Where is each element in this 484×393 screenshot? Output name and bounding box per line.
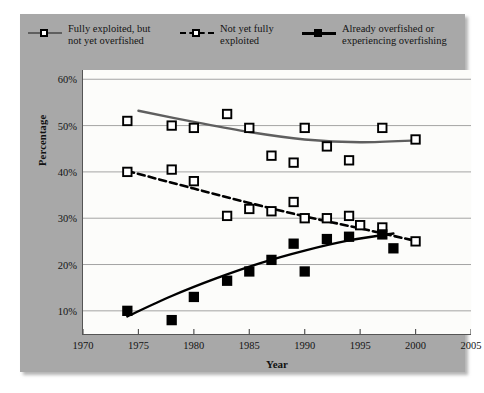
y-tick-label: 60% <box>58 74 77 85</box>
legend-label-already-overfished: Already overfished or experiencing overf… <box>342 23 447 47</box>
x-axis-title: Year <box>266 358 288 370</box>
data-point-marker <box>223 277 231 285</box>
data-point-marker <box>289 239 297 247</box>
y-tick-label: 40% <box>58 166 77 177</box>
legend-label-fully-exploited: Fully exploited, but not yet overfished <box>68 23 151 47</box>
legend-key-open-square-solid-gray-icon <box>28 26 62 40</box>
data-point-marker <box>223 110 231 118</box>
data-point-marker <box>389 244 397 252</box>
data-point-marker <box>411 237 419 245</box>
x-tick-label: 1980 <box>183 340 204 351</box>
legend-key-open-square-dashed-icon <box>180 26 214 40</box>
y-tick-label: 10% <box>58 305 77 316</box>
y-tick-label: 20% <box>58 259 77 270</box>
data-point-marker <box>167 121 175 129</box>
x-tick-label: 2005 <box>461 340 482 351</box>
data-point-marker <box>123 168 131 176</box>
x-tick-label: 1990 <box>294 340 315 351</box>
data-point-marker <box>345 212 353 220</box>
data-point-marker <box>245 124 253 132</box>
data-point-marker <box>267 207 275 215</box>
x-tick-label: 1970 <box>73 340 94 351</box>
data-point-marker <box>167 316 175 324</box>
plot-svg <box>83 70 471 334</box>
data-point-marker <box>345 233 353 241</box>
trend-line-series-1 <box>127 171 415 241</box>
data-point-marker <box>190 177 198 185</box>
y-tick-label: 50% <box>58 120 77 131</box>
data-point-marker <box>345 156 353 164</box>
data-point-marker <box>190 124 198 132</box>
data-point-marker <box>289 198 297 206</box>
legend-item-not-yet-fully-exploited[interactable]: Not yet fully exploited <box>180 23 274 47</box>
data-point-marker <box>245 267 253 275</box>
data-point-marker <box>245 205 253 213</box>
data-point-marker <box>289 158 297 166</box>
y-tick-label: 30% <box>58 213 77 224</box>
trend-line-series-0 <box>138 111 415 143</box>
data-point-marker <box>378 124 386 132</box>
legend-item-already-overfished[interactable]: Already overfished or experiencing overf… <box>302 23 447 47</box>
data-point-marker <box>301 214 309 222</box>
data-point-marker <box>301 124 309 132</box>
data-point-marker <box>190 293 198 301</box>
data-point-marker <box>356 221 364 229</box>
data-point-marker <box>267 256 275 264</box>
data-point-marker <box>411 135 419 143</box>
x-tick-label: 1975 <box>128 340 149 351</box>
legend-key-filled-square-solid-icon <box>302 26 336 40</box>
trend-line-series-2 <box>127 233 393 316</box>
y-axis-title: Percentage <box>37 115 48 166</box>
chart-legend: Fully exploited, but not yet overfished … <box>20 20 465 60</box>
data-point-marker <box>267 151 275 159</box>
data-point-marker <box>167 165 175 173</box>
x-tick-label: 1985 <box>239 340 260 351</box>
data-point-marker <box>378 230 386 238</box>
data-point-marker <box>123 307 131 315</box>
x-tick-label: 1995 <box>350 340 371 351</box>
legend-label-not-yet-fully-exploited: Not yet fully exploited <box>220 23 274 47</box>
data-point-marker <box>223 212 231 220</box>
data-point-marker <box>323 214 331 222</box>
plot-area: 10%20%30%40%50%60% 197019751980198519901… <box>82 70 471 335</box>
data-point-marker <box>301 267 309 275</box>
data-point-marker <box>123 117 131 125</box>
figure-canvas: Fully exploited, but not yet overfished … <box>0 0 484 393</box>
legend-item-fully-exploited[interactable]: Fully exploited, but not yet overfished <box>28 23 151 47</box>
x-tick-label: 2000 <box>405 340 426 351</box>
data-point-marker <box>323 142 331 150</box>
chart-panel: Fully exploited, but not yet overfished … <box>20 14 465 372</box>
data-point-marker <box>323 235 331 243</box>
